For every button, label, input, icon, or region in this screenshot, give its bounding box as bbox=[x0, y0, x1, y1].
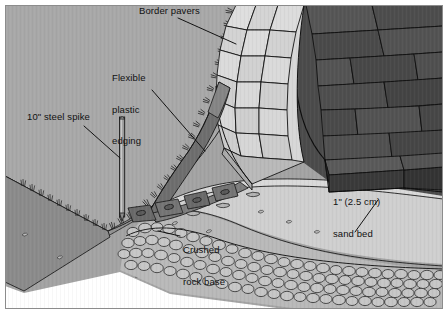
label-sand-bed: 1" (2.5 cm) sand bed bbox=[333, 176, 380, 260]
label-sand-line-2: sand bed bbox=[333, 229, 380, 240]
label-border-pavers: Border pavers bbox=[139, 6, 200, 17]
label-flexible-line-2: plastic bbox=[112, 105, 146, 116]
label-flexible-plastic-edging: Flexible plastic edging bbox=[112, 52, 146, 168]
illustration-figure: Border pavers Flexible plastic edging 10… bbox=[0, 0, 448, 314]
label-flexible-line-3: edging bbox=[112, 136, 146, 147]
label-sand-line-1: 1" (2.5 cm) bbox=[333, 197, 380, 208]
label-rock-line-1: Crushed bbox=[183, 245, 225, 256]
label-flexible-line-1: Flexible bbox=[112, 73, 146, 84]
label-crushed-rock-base: Crushed rock base bbox=[183, 224, 225, 308]
label-rock-line-2: rock base bbox=[183, 277, 225, 288]
label-steel-spike: 10" steel spike bbox=[27, 112, 90, 123]
